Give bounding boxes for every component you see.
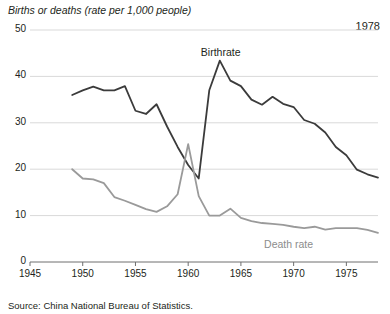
- chart-axes: [30, 262, 378, 266]
- chart-svg: [0, 16, 390, 292]
- chart-plot-area: 010203040501945195019551960196519701975 …: [0, 16, 390, 292]
- x-tick-label: 1950: [66, 268, 100, 279]
- y-tick-label: 0: [2, 255, 26, 266]
- series-label-birthrate: Birthrate: [201, 46, 241, 58]
- chart-series-lines: [72, 61, 378, 233]
- y-tick-label: 40: [2, 69, 26, 80]
- series-line-birthrate: [72, 61, 378, 179]
- x-tick-label: 1970: [277, 268, 311, 279]
- x-tick-label: 1945: [13, 268, 47, 279]
- y-tick-label: 50: [2, 23, 26, 34]
- series-label-deathrate: Death rate: [264, 238, 313, 250]
- series-line-death-rate: [72, 144, 378, 233]
- y-tick-label: 10: [2, 209, 26, 220]
- x-tick-label: 1955: [118, 268, 152, 279]
- chart-source-note: Source: China National Bureau of Statist…: [8, 300, 193, 311]
- y-tick-label: 20: [2, 162, 26, 173]
- x-tick-label: 1975: [329, 268, 363, 279]
- y-tick-label: 30: [2, 116, 26, 127]
- chart-container: Births or deaths (rate per 1,000 people)…: [0, 0, 390, 314]
- chart-axis-title: Births or deaths (rate per 1,000 people): [8, 4, 191, 16]
- x-tick-label: 1960: [171, 268, 205, 279]
- x-tick-label: 1965: [224, 268, 258, 279]
